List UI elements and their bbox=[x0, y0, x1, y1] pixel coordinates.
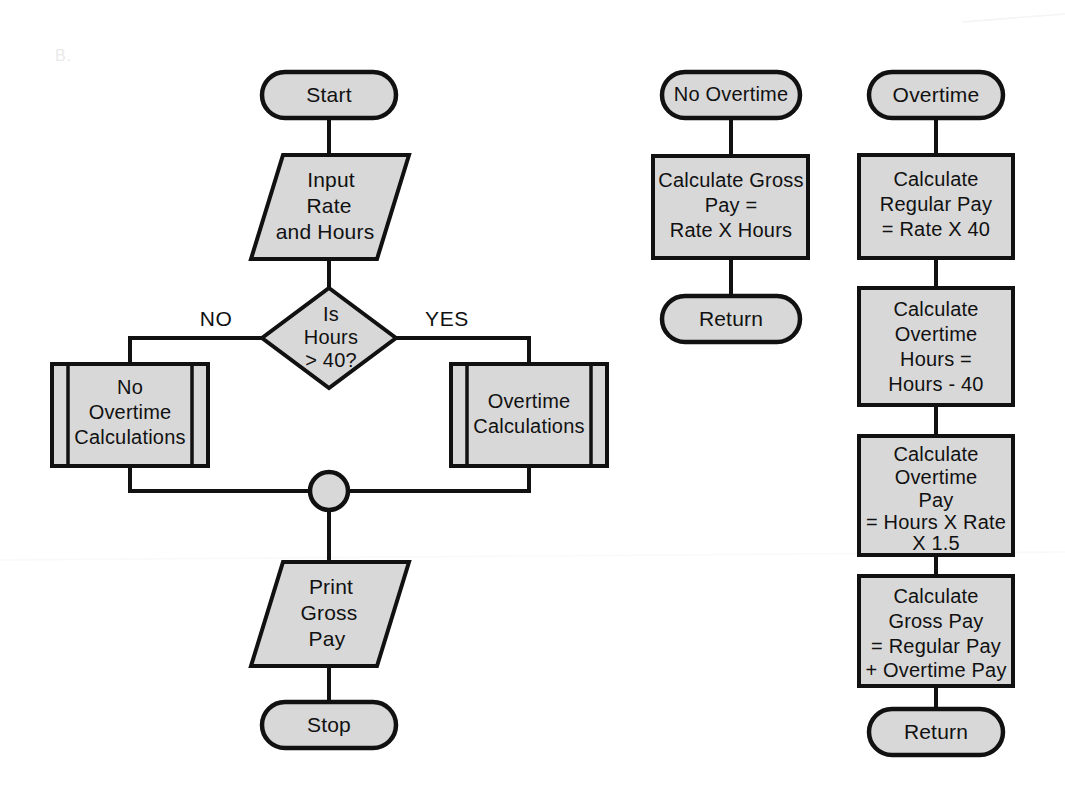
connector-no-branch bbox=[130, 338, 262, 364]
no-overtime-return-label: Return bbox=[699, 307, 763, 330]
node-overtime-calculations: Overtime Calculations bbox=[451, 364, 607, 466]
no-overtime-entry-label: No Overtime bbox=[674, 83, 788, 105]
node-calculate-regular-pay: Calculate Regular Pay = Rate X 40 bbox=[859, 155, 1013, 258]
connector-yes-branch bbox=[396, 338, 529, 364]
decision-label-line-3: > 40? bbox=[305, 349, 357, 371]
stop-label: Stop bbox=[307, 713, 351, 736]
node-calculate-gross-pay-regular: Calculate Gross Pay = Rate X Hours bbox=[653, 156, 808, 258]
calc-ot-pay-line-1: Calculate bbox=[893, 443, 978, 465]
node-calculate-overtime-pay: Calculate Overtime Pay = Hours X Rate X … bbox=[859, 436, 1013, 555]
print-label-line-3: Pay bbox=[309, 627, 346, 650]
print-label-line-2: Gross bbox=[300, 601, 357, 624]
node-no-overtime-entry: No Overtime bbox=[662, 72, 800, 118]
calc-ot-hours-line-4: Hours - 40 bbox=[888, 373, 983, 395]
calc-ot-hours-line-3: Hours = bbox=[900, 348, 972, 370]
connector-right-merge bbox=[347, 466, 529, 491]
calc-ot-pay-line-2: Overtime bbox=[895, 466, 978, 488]
input-label-line-2: Rate bbox=[306, 194, 351, 217]
calc-ot-hours-line-1: Calculate bbox=[893, 298, 978, 320]
node-calculate-overtime-hours: Calculate Overtime Hours = Hours - 40 bbox=[859, 288, 1013, 405]
calc-ot-pay-line-4: = Hours X Rate bbox=[866, 511, 1006, 533]
node-overtime-return: Return bbox=[869, 709, 1003, 755]
print-label-line-1: Print bbox=[309, 575, 353, 598]
no-overtime-calc-label-line-1: No bbox=[117, 376, 143, 398]
decision-label-line-1: Is bbox=[323, 303, 339, 325]
calc-gross-total-line-1: Calculate bbox=[893, 585, 978, 607]
node-stop: Stop bbox=[262, 702, 396, 748]
input-label-line-3: and Hours bbox=[276, 220, 375, 243]
node-print-gross-pay: Print Gross Pay bbox=[251, 562, 409, 666]
flowchart-figure: B. Start Input Rate and Hours Is Hours > bbox=[0, 0, 1065, 798]
calc-ot-hours-line-2: Overtime bbox=[895, 323, 978, 345]
overtime-entry-label: Overtime bbox=[893, 83, 980, 106]
overtime-calc-label-line-1: Overtime bbox=[488, 390, 571, 412]
flowchart-canvas: B. Start Input Rate and Hours Is Hours > bbox=[0, 0, 1065, 798]
node-start: Start bbox=[262, 72, 396, 118]
node-calculate-gross-pay-total: Calculate Gross Pay = Regular Pay + Over… bbox=[859, 576, 1013, 686]
node-overtime-entry: Overtime bbox=[869, 72, 1003, 118]
calc-gross-regular-line-1: Calculate Gross bbox=[658, 169, 803, 191]
node-input-rate-hours: Input Rate and Hours bbox=[251, 155, 409, 259]
node-is-hours-over-40: Is Hours > 40? bbox=[262, 288, 396, 388]
node-merge-connector bbox=[310, 472, 348, 510]
start-label: Start bbox=[306, 83, 351, 106]
connector-left-merge bbox=[130, 466, 311, 491]
decision-label-line-2: Hours bbox=[304, 326, 358, 348]
calc-gross-total-line-2: Gross Pay bbox=[888, 610, 983, 632]
node-no-overtime-return: Return bbox=[662, 296, 800, 342]
calc-regular-pay-line-1: Calculate bbox=[893, 168, 978, 190]
calc-ot-pay-line-5: X 1.5 bbox=[912, 532, 960, 554]
branch-label-no: NO bbox=[200, 307, 233, 330]
overtime-calc-label-line-2: Calculations bbox=[473, 415, 584, 437]
calc-regular-pay-line-2: Regular Pay bbox=[880, 193, 992, 215]
branch-label-yes: YES bbox=[425, 307, 469, 330]
overtime-return-label: Return bbox=[904, 720, 968, 743]
section-label: B. bbox=[55, 47, 72, 64]
no-overtime-calc-label-line-3: Calculations bbox=[74, 426, 185, 448]
calc-gross-total-line-3: = Regular Pay bbox=[871, 635, 1001, 657]
calc-gross-total-line-4: + Overtime Pay bbox=[865, 659, 1006, 681]
node-no-overtime-calculations: No Overtime Calculations bbox=[52, 364, 208, 466]
input-label-line-1: Input bbox=[307, 168, 355, 191]
scan-artifact-line-top bbox=[962, 14, 1065, 22]
merge-circle-shape bbox=[310, 472, 348, 510]
calc-gross-regular-line-2: Pay = bbox=[705, 194, 758, 216]
calc-regular-pay-line-3: = Rate X 40 bbox=[882, 218, 990, 240]
calc-gross-regular-line-3: Rate X Hours bbox=[670, 219, 792, 241]
calc-ot-pay-line-3: Pay bbox=[918, 489, 953, 511]
no-overtime-calc-label-line-2: Overtime bbox=[89, 401, 172, 423]
